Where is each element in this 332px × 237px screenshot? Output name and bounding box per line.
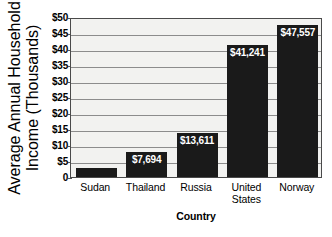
bar-value-label: $7,694 [126,154,167,165]
y-axis-tick-label: $50 [52,13,68,23]
x-axis-tick-label: Sudan [70,181,120,193]
bar-slot [76,19,117,177]
y-axis-tick-mark [68,178,72,179]
bar-value-label: $47,557 [277,27,318,38]
y-axis-tick-label: $25 [52,93,68,103]
y-axis-tick-label: $15 [52,125,68,135]
y-axis-tick-label: $40 [52,45,68,55]
bar-slot: $41,241 [227,19,268,177]
bar-value-label: $41,241 [227,47,268,58]
y-axis-tick-label: $45 [52,29,68,39]
bar[interactable]: $47,557 [277,25,318,177]
x-axis-tick-labels: SudanThailandRussiaUnitedStatesNorway [70,181,322,211]
x-axis-tick-label: Russia [171,181,221,193]
plot-area: $2,700$7,694$13,611$41,241$47,557 [70,18,322,178]
x-axis-tick-label: Thailand [120,181,170,193]
bar-slot: $47,557 [277,19,318,177]
y-axis-tick-label: $35 [52,61,68,71]
y-axis-tick-label: $20 [52,109,68,119]
bar-slot: $13,611 [177,19,218,177]
y-axis-tick-label: $10 [52,141,68,151]
bar[interactable] [76,168,117,177]
x-axis-tick-label-line: United [221,181,271,193]
x-axis-tick-label: UnitedStates [221,181,271,205]
y-axis-tick-label: $30 [52,77,68,87]
x-axis-title: Country [70,210,322,222]
bar-value-label: $2,700 [70,158,76,169]
bar-value-label: $13,611 [177,135,218,146]
y-axis-title-line-1: Average Annual Household [6,1,24,195]
x-axis-tick-label-line: Thailand [120,181,170,193]
x-axis-tick-label-line: Sudan [70,181,120,193]
bar[interactable]: $13,611 [177,133,218,177]
x-axis-tick-label-line: States [221,193,271,205]
x-axis-tick-label-line: Norway [272,181,322,193]
bars-layer: $2,700$7,694$13,611$41,241$47,557 [71,19,321,177]
bar[interactable]: $41,241 [227,45,268,177]
y-axis-tick-label: $5 [57,157,68,167]
x-axis-tick-label-line: Russia [171,181,221,193]
bar-chart: Average Annual Household Income (Thousan… [0,0,332,237]
bar[interactable]: $7,694 [126,152,167,177]
y-axis-tick-labels: $50$45$40$35$30$25$20$15$10$50 [40,18,68,178]
bar-slot: $7,694 [126,19,167,177]
x-axis-tick-label: Norway [272,181,322,193]
